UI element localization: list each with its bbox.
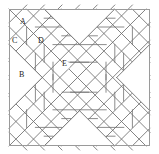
quilt-diagram: A C D B E [0,0,159,154]
region-label-e: E [62,60,67,68]
region-label-d: D [38,37,44,45]
region-label-a: A [20,18,26,26]
region-label-c: C [12,37,17,45]
region-label-b: B [19,71,24,79]
